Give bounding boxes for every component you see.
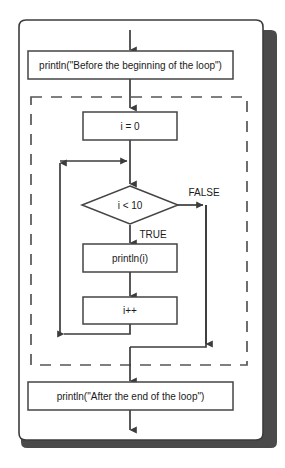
edge-label-false: FALSE xyxy=(188,187,219,198)
node-after[interactable]: println("After the end of the loop") xyxy=(28,382,233,410)
node-before[interactable]: println("Before the beginning of the loo… xyxy=(28,51,233,79)
flowchart-figure: println("Before the beginning of the loo… xyxy=(0,0,285,468)
node-after-label: println("After the end of the loop") xyxy=(57,391,205,402)
node-body-label: println(i) xyxy=(112,253,148,264)
node-body[interactable]: println(i) xyxy=(83,244,177,272)
edge-label-true: TRUE xyxy=(139,229,167,240)
node-update-label: i++ xyxy=(123,305,137,316)
node-before-label: println("Before the beginning of the loo… xyxy=(39,60,222,71)
flowchart-canvas: println("Before the beginning of the loo… xyxy=(0,0,285,468)
node-init-label: i = 0 xyxy=(120,121,140,132)
node-update[interactable]: i++ xyxy=(83,297,177,324)
node-decision-label: i < 10 xyxy=(118,200,143,211)
node-init[interactable]: i = 0 xyxy=(83,112,177,140)
